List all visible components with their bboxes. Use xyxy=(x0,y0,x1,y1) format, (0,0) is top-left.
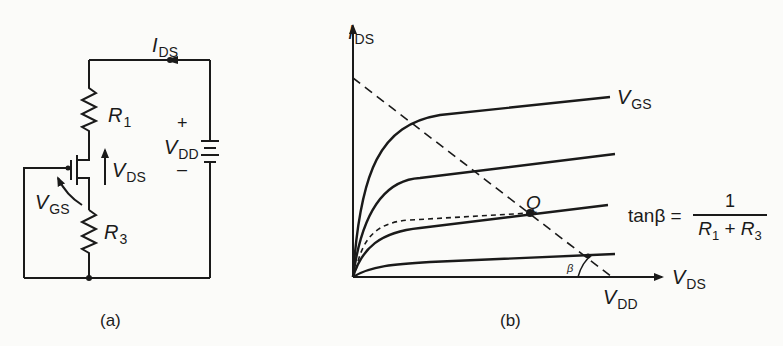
vdd-minus-label: – xyxy=(177,160,187,178)
load-line xyxy=(353,78,612,277)
vdd-plus-label: + xyxy=(177,114,188,132)
r1-label: R1 xyxy=(108,105,131,125)
fraction-denominator: R1 + R3 xyxy=(698,216,762,240)
figure: IDS R1 + VDD – VDS VGS R3 (a) IDS VGS Q … xyxy=(0,0,783,346)
resistor-r3 xyxy=(82,210,96,278)
mosfet-source xyxy=(77,178,89,210)
r3-label: R3 xyxy=(104,222,127,242)
tan-beta-lhs: tanβ = xyxy=(628,206,682,225)
curve-4 xyxy=(353,254,615,277)
fraction-numerator: 1 xyxy=(725,191,735,214)
vds-label-circuit: VDS xyxy=(112,160,146,180)
beta-label: β xyxy=(567,263,573,274)
x-axis-label: VDS xyxy=(672,267,706,287)
y-axis-label: IDS xyxy=(348,22,374,42)
vgs-label-circuit: VGS xyxy=(35,192,70,212)
ground-node-dot xyxy=(86,275,92,281)
vdd-axis-label: VDD xyxy=(603,287,638,307)
vdd-label-circuit: VDD xyxy=(164,137,199,157)
q-point-label: Q xyxy=(526,193,541,212)
tan-beta-fraction: 1 R1 + R3 xyxy=(693,191,767,240)
caption-b: (b) xyxy=(500,312,521,329)
ids-label: IDS xyxy=(152,35,178,55)
gate-wire xyxy=(24,168,71,278)
vgs-curve-label: VGS xyxy=(617,87,652,107)
caption-a: (a) xyxy=(100,312,121,329)
beta-angle-arc xyxy=(578,255,592,277)
resistor-r1 xyxy=(77,60,96,160)
characteristic-plot xyxy=(353,26,662,277)
